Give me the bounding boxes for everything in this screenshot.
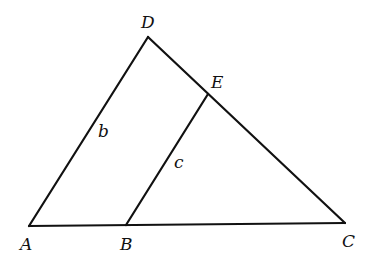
point-label-D: D: [140, 12, 155, 32]
segment-BE: [126, 94, 208, 225]
segment-AC: [29, 223, 345, 226]
triangle-diagram: D E A B C b c: [0, 0, 372, 267]
segment-AD: [29, 37, 148, 226]
point-label-A: A: [18, 234, 32, 254]
point-label-E: E: [210, 72, 224, 92]
side-label-c: c: [174, 152, 184, 172]
side-label-b: b: [98, 121, 109, 141]
point-label-B: B: [119, 234, 133, 254]
segment-DC: [148, 37, 345, 223]
point-label-C: C: [342, 231, 355, 251]
